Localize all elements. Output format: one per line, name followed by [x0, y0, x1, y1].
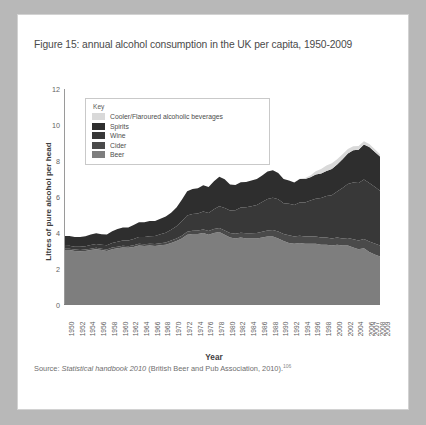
legend-swatch-icon — [92, 123, 105, 130]
y-tick-label: 10 — [30, 121, 60, 130]
legend-item-label: Spirits — [110, 122, 129, 131]
legend-item: Cider — [92, 141, 264, 150]
legend-item-label: Wine — [110, 131, 126, 140]
legend-item-label: Cooler/Flaroured alcoholic beverages — [110, 112, 223, 121]
legend-swatch-icon — [92, 113, 105, 120]
figure-title: Figure 15: annual alcohol consumption in… — [34, 39, 396, 50]
legend-items: Cooler/Flaroured alcoholic beveragesSpir… — [92, 112, 264, 159]
screenshot-page: Figure 15: annual alcohol consumption in… — [0, 0, 426, 425]
chart-container: Litres of pure alcohol per head 02468101… — [18, 67, 410, 367]
y-tick-label: 6 — [30, 193, 60, 202]
source-title: Statistical handbook 2010 — [62, 364, 147, 373]
y-tick-label: 12 — [30, 85, 60, 94]
legend-item-label: Cider — [110, 141, 126, 150]
y-axis-ticks: 024681012 — [26, 89, 60, 305]
y-tick-label: 0 — [30, 301, 60, 310]
legend-item-label: Beer — [110, 150, 124, 159]
legend-item: Beer — [92, 150, 264, 159]
x-axis-label: Year — [18, 353, 410, 362]
legend-title: Key — [93, 103, 264, 110]
chart-legend: Key Cooler/Flaroured alcoholic beverages… — [85, 98, 270, 165]
x-axis-ticks: 1950195219541956195819601962196419661968… — [64, 307, 380, 351]
source-reference: 106 — [283, 363, 291, 369]
source-rest: (British Beer and Pub Association, 2010)… — [146, 364, 283, 373]
legend-swatch-icon — [92, 142, 105, 149]
y-tick-label: 2 — [30, 265, 60, 274]
legend-item: Wine — [92, 131, 264, 140]
y-tick-label: 4 — [30, 229, 60, 238]
legend-item: Spirits — [92, 122, 264, 131]
figure-card: Figure 15: annual alcohol consumption in… — [17, 14, 409, 410]
source-prefix: Source: — [34, 364, 62, 373]
y-axis-line — [64, 89, 65, 305]
source-note: Source: Statistical handbook 2010 (Briti… — [34, 363, 394, 373]
legend-item: Cooler/Flaroured alcoholic beverages — [92, 112, 264, 121]
x-axis-line — [64, 304, 380, 305]
legend-swatch-icon — [92, 132, 105, 139]
legend-swatch-icon — [92, 151, 105, 158]
y-tick-label: 8 — [30, 157, 60, 166]
